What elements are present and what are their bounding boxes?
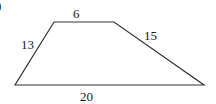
trapezoid-diagram: ) 6 15 20 13	[0, 0, 216, 104]
side-label-left: 13	[21, 37, 34, 52]
side-label-bottom: 20	[80, 89, 93, 104]
side-label-top: 6	[73, 6, 80, 21]
trapezoid-shape	[15, 22, 204, 85]
side-label-right: 15	[144, 28, 157, 43]
partial-figure-label: )	[0, 0, 1, 13]
